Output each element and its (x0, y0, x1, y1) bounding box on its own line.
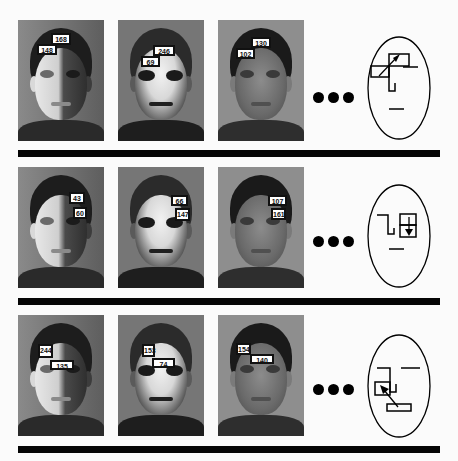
intensity-label: 102 (236, 48, 255, 59)
row-divider-bar (18, 446, 440, 453)
ellipsis-dots (313, 92, 354, 103)
intensity-label: 74 (152, 358, 175, 368)
intensity-label: 130 (251, 37, 271, 48)
intensity-label: 154 (236, 343, 251, 355)
face-schematic-row2 (366, 182, 438, 292)
face-photo-row3-center-lit: 153 74 (118, 315, 204, 436)
intensity-label: 161 (271, 208, 286, 220)
intensity-label: 246 (153, 45, 175, 56)
intensity-label: 43 (69, 192, 85, 204)
row-divider-bar (18, 150, 440, 157)
intensity-label: 69 (141, 56, 160, 67)
ellipsis-dots (313, 236, 354, 247)
intensity-label: 66 (171, 195, 188, 206)
face-photo-row3-left-lit: 244 135 (18, 315, 104, 436)
row-divider-bar (18, 298, 440, 305)
face-photo-row1-left-lit: 168 148 (18, 20, 104, 141)
intensity-label: 135 (50, 360, 74, 370)
intensity-label: 147 (175, 208, 190, 221)
face-schematic-row1 (366, 34, 438, 144)
face-photo-row2-center-lit: 66 147 (118, 167, 204, 288)
face-photo-row1-dim: 130 102 (218, 20, 304, 141)
face-photo-row2-left-lit: 43 60 (18, 167, 104, 288)
face-schematic-row3 (366, 332, 438, 442)
intensity-label: 244 (38, 344, 53, 358)
ellipsis-dots (313, 384, 354, 395)
intensity-label: 107 (268, 195, 287, 206)
face-photo-row1-center-lit: 246 69 (118, 20, 204, 141)
haar-feature-figure: 168 148 246 69 130 102 (0, 0, 458, 461)
face-photo-row3-dim: 154 140 (218, 315, 304, 436)
face-photo-row2-dim: 107 161 (218, 167, 304, 288)
intensity-label: 140 (250, 354, 274, 364)
intensity-label: 153 (142, 344, 155, 357)
intensity-label: 148 (37, 44, 57, 55)
intensity-label: 60 (73, 207, 87, 219)
